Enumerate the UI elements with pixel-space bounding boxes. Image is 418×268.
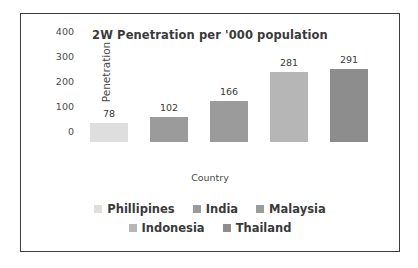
chart-title: 2W Penetration per '000 population bbox=[21, 28, 399, 42]
bar-value-label: 78 bbox=[103, 108, 115, 119]
legend-item-thailand[interactable]: Thailand bbox=[223, 221, 292, 235]
legend-row: IndonesiaThailand bbox=[21, 221, 399, 235]
y-axis-tick-label: 0 bbox=[68, 126, 74, 137]
legend-label: Indonesia bbox=[142, 221, 205, 235]
legend-row: PhillipinesIndiaMalaysia bbox=[21, 202, 399, 216]
bar[interactable] bbox=[90, 123, 127, 143]
legend-item-india[interactable]: India bbox=[193, 202, 238, 216]
bar-group: 166 bbox=[210, 42, 247, 142]
y-axis-tick-label: 200 bbox=[56, 76, 74, 87]
bar-value-label: 102 bbox=[160, 102, 178, 113]
legend-label: Malaysia bbox=[269, 202, 326, 216]
legend-swatch-icon bbox=[223, 224, 231, 232]
legend-item-indonesia[interactable]: Indonesia bbox=[129, 221, 205, 235]
legend-swatch-icon bbox=[256, 205, 264, 213]
legend-label: Thailand bbox=[236, 221, 292, 235]
bar[interactable] bbox=[210, 101, 247, 143]
y-axis-tick-label: 100 bbox=[56, 101, 74, 112]
legend-swatch-icon bbox=[94, 205, 102, 213]
plot-area: Penetration 4003002001000 78102166281291 bbox=[79, 42, 379, 142]
bar[interactable] bbox=[150, 117, 187, 143]
legend-swatch-icon bbox=[193, 205, 201, 213]
bar-value-label: 291 bbox=[340, 54, 358, 65]
bar-group: 281 bbox=[270, 42, 307, 142]
bar-group: 78 bbox=[90, 42, 127, 142]
legend-swatch-icon bbox=[129, 224, 137, 232]
legend-label: India bbox=[206, 202, 238, 216]
legend-item-phillipines[interactable]: Phillipines bbox=[94, 202, 174, 216]
bar[interactable] bbox=[270, 72, 307, 142]
legend-label: Phillipines bbox=[107, 202, 174, 216]
bar[interactable] bbox=[330, 69, 367, 142]
bar-group: 291 bbox=[330, 42, 367, 142]
bar-group: 102 bbox=[150, 42, 187, 142]
x-axis-title: Country bbox=[21, 172, 399, 183]
y-axis-tick-label: 400 bbox=[56, 26, 74, 37]
bar-value-label: 281 bbox=[280, 57, 298, 68]
y-axis-tick-label: 300 bbox=[56, 51, 74, 62]
bar-value-label: 166 bbox=[220, 86, 238, 97]
legend-item-malaysia[interactable]: Malaysia bbox=[256, 202, 326, 216]
chart-legend: PhillipinesIndiaMalaysiaIndonesiaThailan… bbox=[21, 202, 399, 240]
chart-frame: 2W Penetration per '000 population Penet… bbox=[20, 13, 400, 252]
